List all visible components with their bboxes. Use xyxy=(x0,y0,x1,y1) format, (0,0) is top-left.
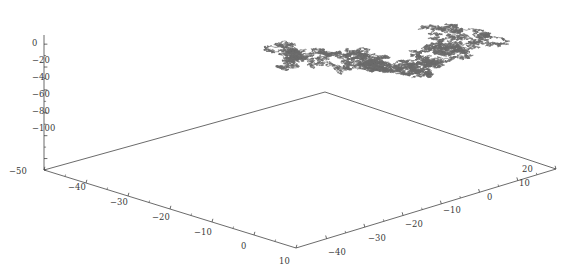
y-tick-label-3: −10 xyxy=(443,205,461,215)
random-walk-path xyxy=(264,24,510,78)
x-tick-label-6: 10 xyxy=(279,256,290,266)
y-tick-label-0: −40 xyxy=(328,247,346,257)
axis-lines xyxy=(44,35,556,248)
z-tick-label-5: −100 xyxy=(32,123,55,133)
z-tick-label-1: −20 xyxy=(32,55,50,65)
x-tick-label-4: −10 xyxy=(194,227,212,237)
random-walk-3d-figure: 0−20−40−60−80−100 −50−40−30−20−10010 −40… xyxy=(0,0,562,273)
z-tick-label-0: 0 xyxy=(32,38,37,48)
z-tick-label-3: −60 xyxy=(32,89,50,99)
x-tick-label-2: −30 xyxy=(110,197,128,207)
y-tick-label-6: 20 xyxy=(522,164,533,174)
x-tick-label-5: 0 xyxy=(241,241,246,251)
z-tick-label-4: −80 xyxy=(32,106,50,116)
x-tick-label-0: −50 xyxy=(9,166,27,176)
axes-and-walk-canvas xyxy=(0,0,562,273)
x-tick-label-1: −40 xyxy=(68,182,86,192)
z-tick-label-2: −40 xyxy=(32,72,50,82)
y-tick-label-2: −20 xyxy=(405,219,423,229)
x-tick-label-3: −20 xyxy=(152,212,170,222)
random-walk-trace xyxy=(264,24,510,78)
y-tick-label-5: 10 xyxy=(519,178,530,188)
y-tick-label-1: −30 xyxy=(368,233,386,243)
y-tick-label-4: 0 xyxy=(487,192,492,202)
